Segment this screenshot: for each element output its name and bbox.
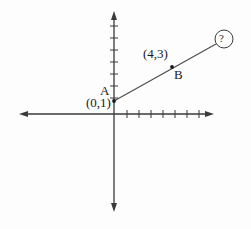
point-a-marker: [112, 99, 116, 103]
point-b-coordinate-label: (4,3): [143, 47, 168, 60]
graph-canvas: [0, 0, 251, 229]
x-axis: [19, 110, 214, 118]
question-mark-circle: [215, 30, 233, 48]
y-axis: [110, 11, 118, 212]
question-mark-label: ?: [219, 33, 224, 44]
point-b-label: B: [174, 68, 183, 81]
x-axis-right-arrow-icon: [205, 111, 214, 117]
x-axis-left-arrow-icon: [19, 111, 28, 117]
y-axis-top-arrow-icon: [111, 11, 117, 20]
y-axis-bottom-arrow-icon: [111, 203, 117, 212]
point-a-coordinate-label: (0,1): [86, 96, 111, 109]
coordinate-graph-figure: A (0,1) B (4,3) ?: [0, 0, 251, 229]
